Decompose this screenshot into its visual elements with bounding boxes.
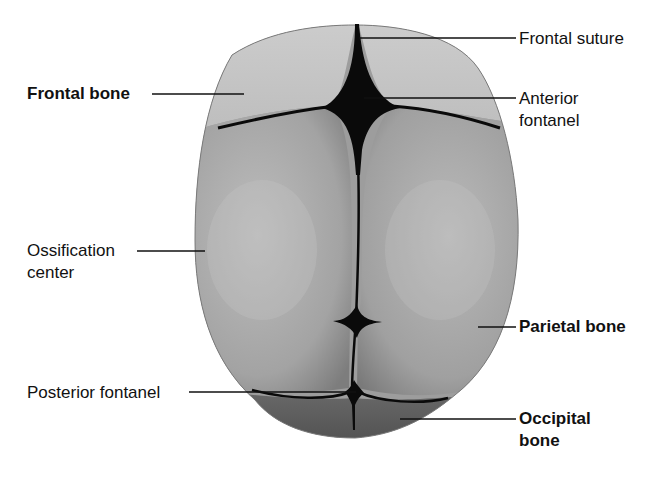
skull-illustration [0, 0, 672, 477]
label-posterior-fontanel: Posterior fontanel [27, 383, 160, 403]
label-ossification-center-line1: Ossification [27, 241, 115, 261]
label-anterior-fontanel-line2: fontanel [519, 111, 580, 131]
label-frontal-bone: Frontal bone [27, 84, 130, 104]
label-occipital-bone-line1: Occipital [519, 409, 591, 429]
label-anterior-fontanel-line1: Anterior [519, 89, 579, 109]
label-parietal-bone: Parietal bone [519, 317, 626, 337]
occipital-bone [180, 388, 540, 460]
skull-diagram: Frontal bone Frontal suture Anterior fon… [0, 0, 672, 477]
label-ossification-center-line2: center [27, 263, 74, 283]
label-occipital-bone-line2: bone [519, 431, 560, 451]
label-frontal-suture: Frontal suture [519, 29, 624, 49]
